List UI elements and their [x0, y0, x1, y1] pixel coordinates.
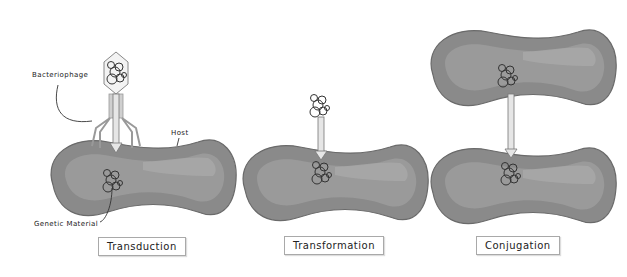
- transformation-label: Transformation: [284, 236, 384, 255]
- bacteriophage-label: Bacteriophage: [32, 71, 88, 79]
- transduction-label: Transduction: [98, 237, 186, 256]
- conjugation-label: Conjugation: [476, 236, 560, 255]
- host-cell: [51, 140, 236, 216]
- bacteriophage-icon: [92, 52, 140, 153]
- phage-pointer: [56, 85, 92, 122]
- donor-cell: [431, 30, 616, 106]
- conjugation-panel: [431, 30, 616, 224]
- free-dna-icon: [310, 95, 330, 118]
- recipient-cell: [243, 145, 428, 221]
- recipient-cell: [431, 148, 616, 224]
- host-label: Host: [171, 129, 189, 137]
- genetic-material-label: Genetic Material: [34, 220, 98, 228]
- transfer-arrow: [505, 94, 517, 158]
- transfer-arrow: [315, 117, 327, 160]
- transformation-panel: [243, 95, 428, 221]
